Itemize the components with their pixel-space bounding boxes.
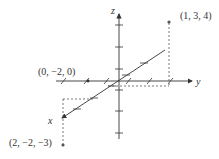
coordinate-diagram: z y x (1, 3, 4) (0, −2, 0) (2, −2, −3)	[0, 0, 219, 159]
point-label-1-3-4: (1, 3, 4)	[180, 10, 212, 22]
point-label-0-neg2-0: (0, −2, 0)	[38, 66, 75, 78]
guide-lines-point-2-neg2-neg3	[63, 99, 95, 145]
x-axis	[62, 50, 165, 118]
guide-lines-point-1-3-4	[108, 23, 169, 86]
y-axis	[56, 78, 192, 84]
z-axis-label: z	[110, 5, 115, 16]
point-0-neg2-0	[87, 80, 90, 83]
y-axis-label: y	[195, 76, 201, 87]
point-1-3-4	[167, 20, 170, 23]
z-axis	[115, 14, 123, 139]
point-2-neg2-neg3	[61, 143, 64, 146]
x-axis-label: x	[47, 115, 53, 126]
point-label-2-neg2-neg3: (2, −2, −3)	[9, 137, 52, 149]
